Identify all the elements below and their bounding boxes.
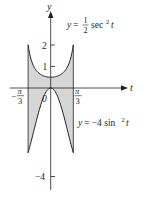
origin-label: 0 (42, 94, 47, 104)
svg-text:π: π (75, 86, 80, 96)
svg-text:y: y (66, 20, 72, 30)
y-axis-arrow-icon (48, 11, 53, 18)
y-tick-label-neg4: −4 (35, 172, 45, 182)
svg-text:2: 2 (122, 116, 125, 123)
lower-curve-label: y = −4 sin 2 t (77, 116, 129, 129)
svg-text:2: 2 (84, 26, 88, 35)
y-tick-label-2: 2 (42, 41, 47, 51)
svg-text:3: 3 (76, 96, 80, 106)
svg-text:sec: sec (91, 20, 103, 30)
t-axis-arrow-icon (121, 85, 128, 90)
svg-text:π: π (18, 86, 23, 96)
svg-text:= −4 sin: = −4 sin (84, 118, 116, 128)
y-tick-label-1: 1 (43, 62, 48, 72)
svg-text:−: − (11, 91, 16, 101)
x-tick-label-pi-over-3: π 3 (75, 86, 82, 106)
svg-text:2: 2 (106, 18, 109, 25)
svg-text:y: y (77, 118, 83, 128)
svg-text:1: 1 (84, 16, 88, 25)
svg-text:3: 3 (18, 96, 22, 106)
y-axis-label: y (46, 1, 52, 12)
svg-text:=: = (73, 20, 78, 30)
region-diagram: y t 0 2 1 −4 − π 3 π 3 y = 1 2 sec 2 t y… (0, 0, 146, 210)
svg-text:t: t (111, 20, 114, 30)
upper-curve-label: y = 1 2 sec 2 t (66, 16, 114, 35)
t-axis-label: t (130, 82, 133, 93)
x-tick-label-neg-pi-over-3: − π 3 (11, 86, 24, 106)
svg-text:t: t (126, 118, 129, 128)
